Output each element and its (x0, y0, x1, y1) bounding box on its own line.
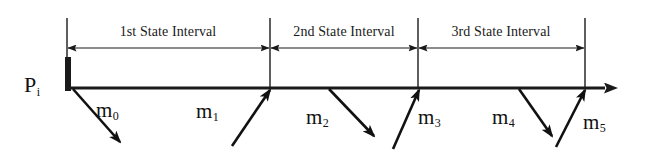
impulse-label-main: m (583, 110, 599, 134)
impulse-arrow-m2 (329, 89, 374, 136)
interval-label-text: 3rd State Interval (452, 24, 551, 39)
impulse-label-subscript: 3 (434, 116, 441, 130)
impulse-arrow-m1 (232, 90, 270, 146)
impulse-label-m1: m1 (196, 101, 219, 123)
impulse-label-m0: m0 (96, 100, 119, 122)
origin-label-subscript: i (36, 85, 40, 99)
interval-label-text: 2nd State Interval (293, 24, 394, 39)
impulse-label-m4: m4 (492, 107, 515, 129)
interval-label-1: 1st State Interval (88, 24, 248, 40)
impulse-label-main: m (196, 99, 212, 123)
impulse-label-main: m (96, 98, 112, 122)
impulse-arrow-m5 (556, 90, 585, 147)
interval-label-text: 1st State Interval (120, 24, 217, 39)
impulse-label-subscript: 2 (322, 116, 329, 130)
interval-label-2: 2nd State Interval (264, 24, 424, 40)
origin-label-main: P (24, 72, 36, 97)
impulse-label-subscript: 0 (112, 109, 119, 123)
impulse-label-m5: m5 (583, 112, 606, 134)
state-interval-impulse-diagram: Pi 1st State Interval2nd State Interval3… (0, 0, 650, 155)
impulse-arrow-m4 (519, 89, 552, 136)
interval-label-3: 3rd State Interval (421, 24, 581, 40)
impulse-label-main: m (306, 105, 322, 129)
impulse-label-m3: m3 (418, 107, 441, 129)
impulse-label-subscript: 4 (508, 116, 515, 130)
impulse-label-m2: m2 (306, 107, 329, 129)
origin-label-p-i: Pi (24, 74, 40, 98)
impulse-label-subscript: 1 (212, 110, 219, 124)
impulse-arrow-m3 (393, 90, 419, 149)
impulse-label-subscript: 5 (599, 121, 606, 135)
impulse-label-main: m (418, 105, 434, 129)
impulse-label-main: m (492, 105, 508, 129)
